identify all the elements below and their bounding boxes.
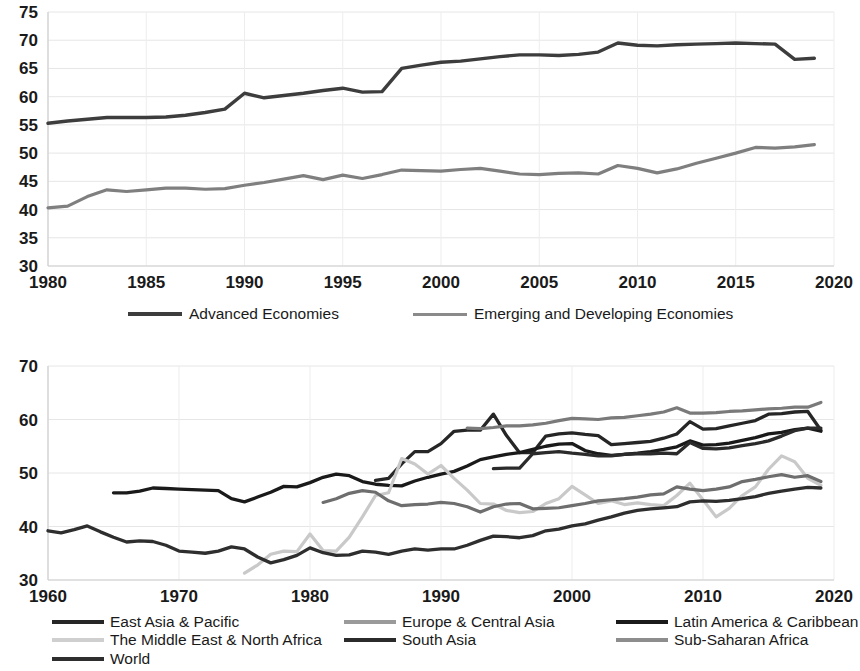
x-axis-tick-label: 1970	[160, 587, 198, 606]
legend-label-world: World	[110, 651, 150, 667]
legend-swatch-sub-saharan-africa	[616, 638, 668, 642]
legend-item-emerging-economies: Emerging and Developing Economies	[413, 306, 733, 322]
legend-label-emerging-economies: Emerging and Developing Economies	[474, 306, 733, 322]
series-line-world	[48, 487, 821, 562]
top-chart-svg: 3035404550556065707519801985199019952000…	[0, 0, 860, 306]
legend-item-europe-central-asia: Europe & Central Asia	[344, 614, 616, 630]
legend-swatch-europe-central-asia	[344, 620, 396, 624]
y-axis-tick-label: 65	[19, 59, 38, 78]
x-axis-tick-label: 2005	[520, 273, 558, 292]
legend-label-europe-central-asia: Europe & Central Asia	[402, 614, 555, 630]
y-axis-tick-label: 50	[19, 144, 38, 163]
legend-swatch-emerging-economies	[413, 313, 467, 316]
series-line-emerging-and-developing-economies	[48, 145, 814, 208]
legend-label-middle-east-north-africa: The Middle East & North Africa	[110, 632, 322, 648]
x-axis-tick-label: 1980	[291, 587, 329, 606]
legend-label-sub-saharan-africa: Sub-Saharan Africa	[674, 632, 808, 648]
top-chart-plot-area: 3035404550556065707519801985199019952000…	[0, 0, 860, 306]
legend-label-south-asia: South Asia	[402, 632, 476, 648]
legend-label-east-asia-pacific: East Asia & Pacific	[110, 614, 239, 630]
x-axis-tick-label: 1990	[226, 273, 264, 292]
legend-item-south-asia: South Asia	[344, 632, 616, 648]
y-axis-tick-label: 40	[19, 518, 38, 537]
x-axis-tick-label: 2000	[553, 587, 591, 606]
legend-swatch-middle-east-north-africa	[52, 638, 104, 642]
y-axis-tick-label: 70	[19, 357, 38, 376]
legend-swatch-south-asia	[344, 638, 396, 642]
x-axis-tick-label: 1985	[127, 273, 165, 292]
legend-label-advanced-economies: Advanced Economies	[189, 306, 339, 322]
x-axis-tick-label: 2010	[619, 273, 657, 292]
x-axis-tick-label: 1980	[29, 273, 67, 292]
top-chart-legend: Advanced Economies Emerging and Developi…	[0, 306, 860, 340]
legend-item-advanced-economies: Advanced Economies	[128, 306, 339, 322]
legend-item-sub-saharan-africa: Sub-Saharan Africa	[616, 632, 860, 648]
legend-item-latin-america-caribbean: Latin America & Caribbean	[616, 614, 860, 630]
legend-item-world: World	[52, 651, 344, 667]
y-axis-tick-label: 35	[19, 229, 38, 248]
x-axis-tick-label: 2010	[684, 587, 722, 606]
legend-swatch-east-asia-pacific	[52, 620, 104, 624]
legend-label-latin-america-caribbean: Latin America & Caribbean	[674, 614, 858, 630]
y-axis-tick-label: 50	[19, 464, 38, 483]
y-axis-tick-label: 45	[19, 172, 38, 191]
series-line-east-asia-pacific	[376, 411, 821, 480]
x-axis-tick-label: 2015	[717, 273, 755, 292]
y-axis-tick-label: 75	[19, 3, 38, 22]
bottom-chart-plot-area: 30405060701960197019801990200020102020	[0, 352, 860, 613]
x-axis-tick-label: 2020	[815, 273, 853, 292]
bottom-chart-legend: East Asia & Pacific Europe & Central Asi…	[0, 613, 860, 671]
bottom-chart-svg: 30405060701960197019801990200020102020	[0, 352, 860, 613]
y-axis-tick-label: 55	[19, 116, 38, 135]
series-line-advanced-economies	[48, 43, 814, 123]
legend-swatch-world	[52, 657, 104, 661]
y-axis-tick-label: 70	[19, 31, 38, 50]
x-axis-tick-label: 1995	[324, 273, 362, 292]
y-axis-tick-label: 60	[19, 411, 38, 430]
x-axis-tick-label: 2000	[422, 273, 460, 292]
legend-item-east-asia-pacific: East Asia & Pacific	[52, 614, 344, 630]
advanced-vs-emerging-chart: 3035404550556065707519801985199019952000…	[0, 0, 860, 352]
legend-swatch-latin-america-caribbean	[616, 620, 668, 624]
x-axis-tick-label: 1990	[422, 587, 460, 606]
legend-item-middle-east-north-africa: The Middle East & North Africa	[52, 632, 344, 648]
legend-swatch-advanced-economies	[128, 312, 182, 316]
x-axis-tick-label: 2020	[815, 587, 853, 606]
y-axis-tick-label: 60	[19, 88, 38, 107]
x-axis-tick-label: 1960	[29, 587, 67, 606]
y-axis-tick-label: 40	[19, 201, 38, 220]
